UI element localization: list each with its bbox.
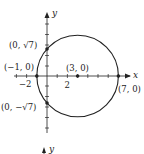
point-center	[76, 74, 80, 78]
x-axis-label: x	[133, 70, 138, 80]
x-axis-arrow-icon	[125, 74, 131, 79]
y-axis-label-bottom: y	[48, 144, 55, 154]
circle-graph: y x −2 2 (0, √7) (−1, 0) (3, 0) (7, 0) (…	[0, 0, 144, 154]
tick-label-neg2: −2	[19, 79, 32, 89]
point-label-bottom: (0, −√7)	[1, 102, 36, 112]
y-axis-arrow-icon	[45, 12, 50, 18]
point-bottom	[45, 101, 49, 105]
point-top	[45, 47, 49, 51]
y-axis-label: y	[51, 8, 58, 18]
point-label-left: (−1, 0)	[4, 62, 34, 72]
point-label-top: (0, √7)	[9, 40, 37, 50]
point-left	[35, 74, 39, 78]
point-label-center: (3, 0)	[66, 63, 89, 73]
point-right	[117, 74, 121, 78]
point-label-right: (7, 0)	[118, 84, 141, 94]
tick-label-2: 2	[65, 80, 70, 90]
